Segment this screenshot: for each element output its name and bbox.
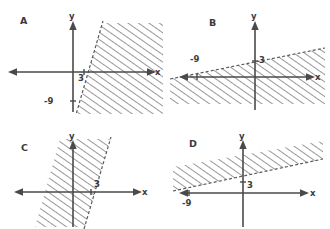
tick-label-x-neg9: -9 [190, 54, 200, 64]
tick-label-y-neg9: -9 [44, 96, 54, 106]
y-axis [239, 140, 246, 227]
tick-label-y-3: 3 [247, 180, 253, 190]
tick-label-y-3: 3 [259, 55, 265, 65]
panel-letter-a: A [20, 15, 28, 26]
multiple-choice-graph-figure: x y 3 -9 A [0, 0, 330, 229]
x-axis [179, 189, 309, 197]
x-axis-label: x [155, 67, 161, 77]
answer-choice-panel-a[interactable]: x y 3 -9 A [0, 0, 165, 114]
answer-choice-panel-d[interactable]: x y -9 3 D [165, 115, 330, 229]
answer-choice-panel-b[interactable]: x y -9 3 B [165, 0, 330, 114]
x-axis-label: x [315, 72, 321, 82]
y-axis-label: y [239, 131, 245, 141]
shaded-region [77, 23, 163, 114]
y-axis-label: y [69, 11, 75, 21]
panel-letter-b: B [209, 17, 216, 28]
panel-letter-c: C [21, 142, 28, 153]
tick-label-x-3: 3 [94, 179, 100, 189]
y-axis [69, 21, 76, 112]
x-axis-label: x [142, 187, 148, 197]
y-axis-label: y [251, 11, 257, 21]
tick-label-x-neg9: -9 [182, 198, 192, 208]
tick-label-x-3: 3 [78, 73, 84, 83]
panel-letter-d: D [189, 138, 197, 149]
y-axis-label: y [69, 131, 75, 141]
x-axis-label: x [310, 188, 316, 198]
answer-choice-panel-c[interactable]: x y 3 C [0, 115, 165, 229]
